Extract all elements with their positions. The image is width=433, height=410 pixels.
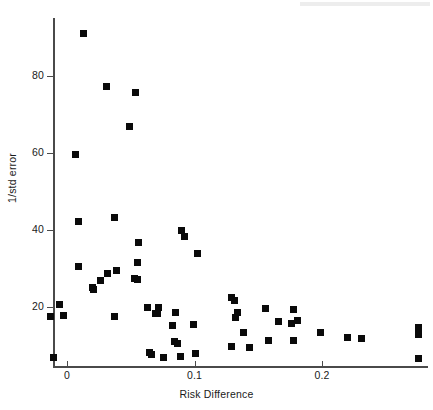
scatter-point xyxy=(265,337,272,344)
scatter-point xyxy=(275,318,282,325)
scatter-point xyxy=(231,297,238,304)
scatter-point xyxy=(75,263,82,270)
y-tick-label: 80 xyxy=(0,70,44,82)
x-tick-label: 0.2 xyxy=(300,370,344,384)
scatter-point xyxy=(72,151,79,158)
scatter-point xyxy=(232,314,239,321)
scatter-point xyxy=(148,351,155,358)
x-tick-label: 0 xyxy=(45,370,89,384)
scatter-point xyxy=(194,250,201,257)
scatter-point xyxy=(60,312,67,319)
scatter-point xyxy=(415,355,422,362)
scatter-point xyxy=(144,304,151,311)
scatter-point xyxy=(317,329,324,336)
y-tick-label-text: 60 xyxy=(32,147,44,158)
scatter-point xyxy=(134,259,141,266)
x-axis-title: Risk Difference xyxy=(0,388,433,400)
scatter-point xyxy=(181,233,188,240)
y-tick-label-text: 80 xyxy=(32,70,44,81)
scatter-point xyxy=(174,340,181,347)
scatter-point xyxy=(135,239,142,246)
scatter-point xyxy=(50,354,57,361)
scatter-point xyxy=(290,337,297,344)
scatter-point xyxy=(415,324,422,331)
scatter-point xyxy=(290,306,297,313)
scatter-point xyxy=(228,343,235,350)
scatter-point xyxy=(97,277,104,284)
x-tick-mark xyxy=(322,361,323,367)
x-tick-mark xyxy=(67,361,68,367)
y-tick-label: 20 xyxy=(0,301,44,313)
scatter-point xyxy=(126,123,133,130)
funnel-plot-figure: 20406080 00.10.2 Risk Difference 1/std e… xyxy=(0,0,433,410)
scatter-point xyxy=(344,334,351,341)
scatter-point xyxy=(358,335,365,342)
y-tick-mark xyxy=(47,307,53,308)
scatter-point xyxy=(172,309,179,316)
scatter-point xyxy=(56,301,63,308)
x-tick-label-text: 0.2 xyxy=(300,370,344,381)
scatter-point xyxy=(294,317,301,324)
scatter-point xyxy=(113,267,120,274)
x-tick-label-text: 0.1 xyxy=(173,370,217,381)
scatter-point xyxy=(75,218,82,225)
scatter-point xyxy=(177,353,184,360)
y-tick-mark xyxy=(47,153,53,154)
scatter-point xyxy=(152,310,159,317)
scatter-point xyxy=(415,331,422,338)
y-tick-mark xyxy=(47,230,53,231)
scatter-point xyxy=(192,350,199,357)
scan-artifact xyxy=(300,2,430,6)
y-tick-mark xyxy=(47,76,53,77)
scatter-point xyxy=(190,321,197,328)
x-tick-mark xyxy=(195,361,196,367)
scatter-point xyxy=(262,305,269,312)
scatter-point xyxy=(111,214,118,221)
x-axis-line xyxy=(53,366,428,368)
scatter-point xyxy=(160,354,167,361)
scatter-point xyxy=(90,286,97,293)
scatter-point xyxy=(288,320,295,327)
scatter-point xyxy=(134,276,141,283)
scatter-point xyxy=(246,344,253,351)
scatter-point xyxy=(47,313,54,320)
x-tick-label: 0.1 xyxy=(173,370,217,384)
y-tick-label-text: 40 xyxy=(32,224,44,235)
scatter-point xyxy=(80,30,87,37)
y-tick-label-text: 20 xyxy=(32,301,44,312)
scatter-point xyxy=(104,270,111,277)
scatter-point xyxy=(103,83,110,90)
scatter-point xyxy=(111,313,118,320)
scatter-point xyxy=(169,322,176,329)
scatter-point xyxy=(240,329,247,336)
scatter-point xyxy=(132,89,139,96)
y-axis-title: 1/std error xyxy=(6,128,18,228)
x-tick-label-text: 0 xyxy=(45,370,89,381)
